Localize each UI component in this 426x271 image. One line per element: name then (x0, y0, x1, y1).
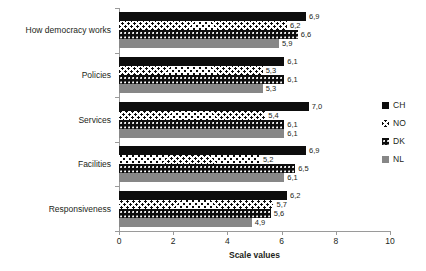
bar-value-label: 6,1 (287, 57, 297, 66)
x-axis-tick-label: 10 (378, 236, 402, 246)
bar-no (119, 155, 260, 164)
x-axis-tick (119, 231, 120, 235)
bar-row: 6,1 (119, 173, 390, 182)
bar-value-label: 6,1 (287, 173, 297, 182)
x-axis-title: Scale values (119, 250, 390, 260)
x-axis-tick (282, 231, 283, 235)
bar-row: 6,5 (119, 164, 390, 173)
bar-no (119, 111, 265, 120)
legend-swatch-icon (382, 156, 389, 163)
legend-label: NO (393, 119, 406, 128)
legend-label: NL (393, 155, 404, 164)
y-axis-tick (115, 8, 119, 9)
bar-ch (119, 57, 284, 66)
legend-swatch-icon (382, 138, 389, 145)
bar-group: 6,15,36,15,3 (119, 57, 390, 93)
x-axis-tick (173, 231, 174, 235)
bar-ch (119, 146, 306, 155)
legend-label: DK (393, 137, 405, 146)
y-axis-tick (115, 142, 119, 143)
bar-dk (119, 164, 295, 173)
bar-row: 5,7 (119, 200, 390, 209)
plot-area: 6,96,26,65,96,15,36,15,37,05,46,16,16,95… (119, 8, 390, 231)
bar-row: 6,9 (119, 146, 390, 155)
bar-row: 5,3 (119, 84, 390, 93)
bar-nl (119, 218, 252, 227)
legend-label: CH (393, 101, 405, 110)
bar-value-label: 4,9 (255, 218, 265, 227)
bar-row: 6,1 (119, 120, 390, 129)
bar-row: 4,9 (119, 218, 390, 227)
bar-nl (119, 173, 284, 182)
legend-swatch-icon (382, 102, 389, 109)
bar-row: 6,6 (119, 30, 390, 39)
bar-row: 6,9 (119, 12, 390, 21)
y-axis-tick (115, 97, 119, 98)
y-axis-tick (115, 186, 119, 187)
bar-value-label: 5,6 (274, 209, 284, 218)
bar-group: 6,95,26,56,1 (119, 146, 390, 182)
bar-group: 6,25,75,64,9 (119, 191, 390, 227)
bar-row: 6,2 (119, 191, 390, 200)
category-axis-labels: How democracy worksPoliciesServicesFacil… (0, 0, 115, 231)
bar-dk (119, 30, 298, 39)
category-label: How democracy works (26, 25, 112, 35)
bar-ch (119, 191, 287, 200)
x-axis-tick-label: 0 (107, 236, 131, 246)
bar-row: 5,4 (119, 111, 390, 120)
x-axis-tick-label: 6 (270, 236, 294, 246)
category-label: Responsiveness (49, 204, 111, 214)
bar-ch (119, 12, 306, 21)
bar-row: 7,0 (119, 102, 390, 111)
bar-row: 6,2 (119, 21, 390, 30)
bar-row: 6,1 (119, 129, 390, 138)
bar-dk (119, 120, 284, 129)
bar-no (119, 200, 273, 209)
y-axis-tick (115, 53, 119, 54)
x-axis-line (119, 231, 390, 232)
bar-chart: How democracy worksPoliciesServicesFacil… (0, 0, 426, 271)
bar-row: 5,9 (119, 39, 390, 48)
bar-nl (119, 84, 263, 93)
category-label: Services (78, 115, 111, 125)
bar-nl (119, 39, 279, 48)
bar-dk (119, 209, 271, 218)
bar-value-label: 5,4 (268, 111, 278, 120)
bar-group: 6,96,26,65,9 (119, 12, 390, 48)
bar-value-label: 5,2 (263, 155, 273, 164)
bar-value-label: 5,7 (276, 200, 286, 209)
x-axis-tick (390, 231, 391, 235)
bar-value-label: 6,6 (301, 30, 311, 39)
category-label: Facilities (78, 159, 111, 169)
bar-value-label: 6,1 (287, 120, 297, 129)
bar-value-label: 6,9 (309, 146, 319, 155)
bar-ch (119, 102, 309, 111)
bar-value-label: 5,9 (282, 39, 292, 48)
x-axis-tick (336, 231, 337, 235)
bar-row: 6,1 (119, 57, 390, 66)
bar-row: 6,1 (119, 75, 390, 84)
bar-no (119, 66, 263, 75)
bar-row: 5,6 (119, 209, 390, 218)
bar-value-label: 7,0 (312, 102, 322, 111)
bar-value-label: 6,1 (287, 75, 297, 84)
x-axis-tick (227, 231, 228, 235)
bar-value-label: 6,9 (309, 12, 319, 21)
bar-no (119, 21, 287, 30)
bar-row: 5,3 (119, 66, 390, 75)
x-axis-tick-label: 2 (161, 236, 185, 246)
bar-dk (119, 75, 284, 84)
x-axis-tick-label: 8 (324, 236, 348, 246)
bar-value-label: 6,2 (290, 191, 300, 200)
bar-nl (119, 129, 284, 138)
bar-value-label: 5,3 (266, 66, 276, 75)
bar-value-label: 5,3 (266, 84, 276, 93)
bar-value-label: 6,5 (298, 164, 308, 173)
bar-value-label: 6,2 (290, 21, 300, 30)
category-label: Policies (82, 70, 111, 80)
bar-value-label: 6,1 (287, 129, 297, 138)
bar-group: 7,05,46,16,1 (119, 102, 390, 138)
bar-row: 5,2 (119, 155, 390, 164)
x-axis-tick-label: 4 (215, 236, 239, 246)
legend-swatch-icon (382, 120, 389, 127)
